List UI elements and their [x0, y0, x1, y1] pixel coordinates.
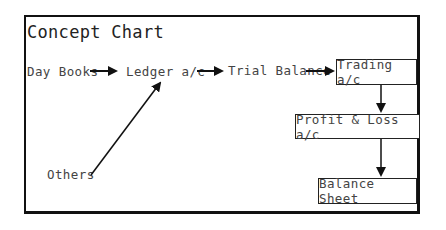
arrow-others-ledger: [91, 83, 160, 175]
arrows-layer: [0, 0, 446, 230]
